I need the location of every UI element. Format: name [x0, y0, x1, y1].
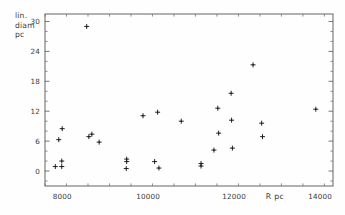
- data-point: [59, 159, 64, 164]
- x-tick-label: 8000: [53, 192, 72, 201]
- y-tick-label: 0: [35, 167, 40, 176]
- data-point: [141, 113, 146, 118]
- data-point: [229, 118, 234, 123]
- data-point: [230, 146, 235, 151]
- data-point: [216, 131, 221, 136]
- axis-tick-labels: 80001000012000140000612182430: [30, 17, 332, 201]
- data-point: [259, 121, 264, 126]
- data-point: [84, 24, 89, 29]
- data-point: [313, 107, 318, 112]
- data-point: [56, 137, 61, 142]
- data-point: [53, 164, 58, 169]
- y-axis-title-line: lin.: [15, 11, 27, 20]
- data-point: [155, 110, 160, 115]
- data-point: [229, 91, 234, 96]
- data-point: [156, 166, 161, 171]
- data-point: [215, 106, 220, 111]
- axis-ticks: [45, 14, 333, 186]
- plot-canvas: 80001000012000140000612182430 R pclin.di…: [0, 0, 345, 215]
- y-axis-title-line: diam: [15, 21, 35, 30]
- data-point: [89, 132, 94, 137]
- y-axis-title-line: pc: [15, 30, 24, 39]
- data-point: [124, 159, 129, 164]
- data-markers: [53, 24, 318, 171]
- data-point: [124, 166, 129, 171]
- data-point: [59, 164, 64, 169]
- data-point: [179, 119, 184, 124]
- data-point: [251, 62, 256, 67]
- x-tick-label: 12000: [222, 192, 246, 201]
- data-point: [211, 148, 216, 153]
- y-tick-label: 18: [30, 77, 40, 86]
- x-tick-label: 14000: [308, 192, 332, 201]
- data-point: [260, 134, 265, 139]
- axes-frame: [45, 14, 333, 186]
- data-point: [152, 159, 157, 164]
- y-tick-label: 12: [30, 107, 40, 116]
- y-tick-label: 24: [30, 47, 40, 56]
- x-axis-title: R pc: [266, 192, 284, 201]
- scatter-plot-figure: 80001000012000140000612182430 R pclin.di…: [0, 0, 345, 215]
- y-tick-label: 6: [35, 137, 40, 146]
- data-point: [60, 126, 65, 131]
- data-point: [86, 134, 91, 139]
- data-point: [199, 164, 204, 169]
- data-point: [97, 140, 102, 145]
- x-tick-label: 10000: [136, 192, 160, 201]
- axis-titles: R pclin.diampc: [15, 11, 284, 201]
